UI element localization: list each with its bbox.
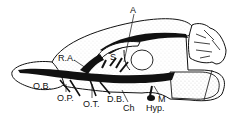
label-hyp: Hyp.	[146, 104, 165, 113]
label-ob: O.B.	[33, 82, 51, 91]
brain-diagram: A R.A. S O.B. O.P. O.T. D.B. Ch M Hyp.	[0, 0, 235, 128]
label-ra: R.A.	[58, 54, 76, 63]
label-s: S	[110, 53, 116, 62]
label-ch: Ch	[123, 104, 135, 113]
label-a: A	[130, 6, 136, 15]
thalamus	[131, 50, 153, 70]
label-db: D.B.	[107, 95, 125, 104]
label-op: O.P.	[57, 94, 74, 103]
brain-illustration	[0, 0, 235, 128]
brainstem	[170, 72, 219, 99]
label-ot: O.T.	[83, 100, 100, 109]
